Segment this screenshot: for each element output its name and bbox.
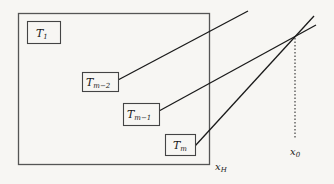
box-tm-1: Tm−1: [124, 104, 160, 126]
line-tm-1: [159, 25, 316, 111]
line-tm-2: [118, 11, 248, 80]
box-tm-2: Tm−2: [83, 73, 119, 92]
box-tm: Tm: [166, 135, 196, 156]
box-t1: T1: [28, 22, 61, 44]
x0-label: x0: [290, 146, 301, 159]
diagram-canvas: T1 Tm−2 Tm−1 Tm xH x0: [0, 0, 334, 184]
x-h-label: xH: [215, 161, 228, 174]
